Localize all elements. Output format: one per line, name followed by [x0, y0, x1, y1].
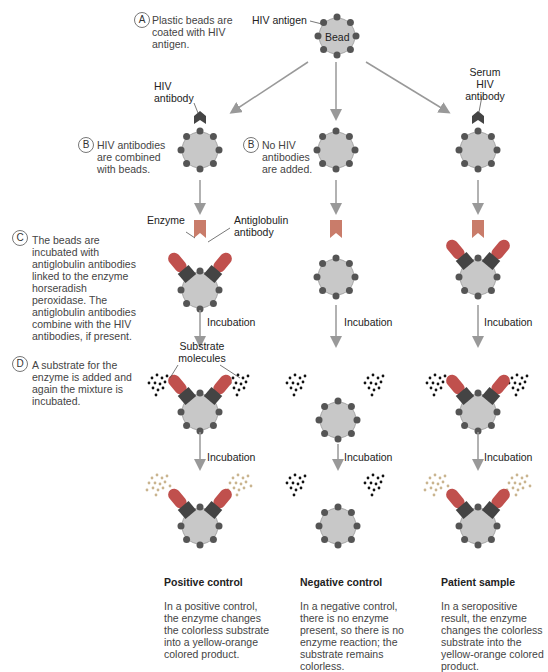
step-b2-text: No HIV antibodies are added.: [262, 139, 312, 175]
step-d-text: A substrate for the enzyme is added and …: [32, 359, 132, 407]
result-text: In a positive control, the enzyme change…: [164, 600, 269, 660]
result-patient-sample: Patient sample In a seropositive result,…: [441, 564, 544, 672]
incubation-label-3b: Incubation: [484, 451, 532, 463]
hiv-antibody-label: HIV antibody: [154, 80, 194, 104]
result-title: Negative control: [300, 576, 404, 588]
step-b1-text: HIV antibodies are combined with beads.: [97, 139, 165, 175]
step-a-badge: A: [134, 12, 150, 28]
incubation-label-2a: Incubation: [344, 316, 392, 328]
incubation-label-2b: Incubation: [344, 451, 392, 463]
result-text: In a seropositive result, the enzyme cha…: [441, 600, 544, 672]
result-title: Patient sample: [441, 576, 544, 588]
step-c-text: The beads are incubated with antiglobuli…: [32, 234, 136, 342]
step-a-text: Plastic beads are coated with HIV antige…: [152, 14, 233, 50]
antiglobulin-antibody-label: Antiglobulin antibody: [234, 214, 288, 238]
hiv-antigen-label: HIV antigen: [252, 14, 307, 26]
step-d-badge: D: [12, 356, 28, 372]
serum-hiv-antibody-label: Serum HIV antibody: [460, 66, 510, 102]
result-title: Positive control: [164, 576, 269, 588]
substrate-molecules-label: Substrate molecules: [172, 340, 232, 364]
step-b1-badge: B: [78, 137, 94, 153]
step-c-badge: C: [12, 230, 28, 246]
result-text: In a negative control, there is no enzym…: [300, 600, 404, 672]
incubation-label-1b: Incubation: [207, 451, 255, 463]
result-negative-control: Negative control In a negative control, …: [300, 564, 404, 672]
incubation-label-3a: Incubation: [484, 316, 532, 328]
bead-label: Bead: [325, 31, 350, 43]
enzyme-label: Enzyme: [147, 214, 185, 226]
result-positive-control: Positive control In a positive control, …: [164, 564, 269, 660]
step-b2-badge: B: [243, 137, 259, 153]
incubation-label-1a: Incubation: [207, 316, 255, 328]
